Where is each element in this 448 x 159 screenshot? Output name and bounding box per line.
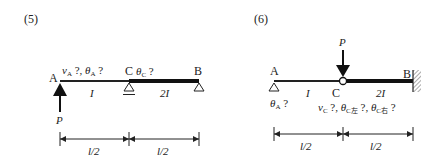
- pin-support-icon: [194, 83, 204, 91]
- dimension-label-right: l/2: [370, 140, 382, 152]
- unknowns-c: vC ?, θC左 ?, θC右 ?: [318, 101, 396, 115]
- stiffness-cb: 2I: [376, 87, 387, 99]
- pin-support-icon: [269, 83, 279, 91]
- dimension-label-right: l/2: [157, 145, 169, 157]
- dimension-line: [60, 132, 199, 146]
- load-label: P: [338, 36, 346, 48]
- stiffness-cb: 2I: [160, 87, 171, 99]
- diagram-5: (5) A C B vA ?, θA ? θC ? I 2I P: [24, 12, 204, 157]
- load-label: P: [55, 114, 63, 126]
- node-c-label: C: [125, 64, 133, 78]
- dimension-label-left: l/2: [88, 145, 100, 157]
- roller-support-icon: [123, 83, 135, 95]
- stiffness-ac: I: [89, 87, 95, 99]
- node-c-label: C: [332, 86, 340, 100]
- hinge-icon: [340, 78, 347, 85]
- load-arrow-up-icon: [53, 83, 67, 112]
- unknowns-a: vA ?, θA ?: [62, 64, 103, 78]
- unknowns-a: θA ?: [270, 97, 288, 111]
- load-arrow-down-icon: [336, 50, 350, 77]
- dimension-label-left: l/2: [300, 140, 312, 152]
- fixed-support-icon: [413, 70, 421, 92]
- node-b-label: B: [194, 64, 202, 78]
- node-a-label: A: [49, 71, 58, 85]
- diagram-label: (6): [254, 12, 268, 26]
- structural-diagrams: (5) A C B vA ?, θA ? θC ? I 2I P: [0, 0, 448, 159]
- diagram-6: (6) A C B I 2I θA ? vC ?, θC左 ?, θC右 ? P: [254, 12, 421, 152]
- diagram-label: (5): [24, 12, 38, 26]
- node-b-label: B: [403, 67, 411, 81]
- unknowns-c: θC ?: [136, 65, 154, 79]
- node-a-label: A: [270, 64, 279, 78]
- stiffness-ac: I: [305, 87, 311, 99]
- dimension-line: [274, 127, 413, 141]
